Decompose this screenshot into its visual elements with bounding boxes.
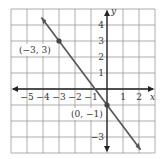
x-tick-label: 2 bbox=[136, 92, 142, 102]
y-tick-label: −3 bbox=[91, 132, 105, 142]
x-axis-label: x bbox=[150, 92, 155, 102]
point-label: (−3, 3) bbox=[19, 45, 51, 55]
y-axis-label: y bbox=[110, 6, 117, 16]
coordinate-plane: −5−4−3−2−1124321−3xy (−3, 3)(0, −1) bbox=[0, 0, 161, 159]
y-tick-label: 2 bbox=[98, 52, 104, 62]
x-tick-label: −1 bbox=[84, 92, 97, 102]
x-tick-label: 1 bbox=[120, 92, 126, 102]
data-point bbox=[104, 102, 109, 107]
arrow-left-icon bbox=[12, 86, 18, 92]
arrow-up-icon bbox=[104, 10, 110, 16]
x-tick-label: −2 bbox=[68, 92, 81, 102]
y-tick-label: 1 bbox=[98, 68, 104, 78]
x-tick-label: −3 bbox=[52, 92, 66, 102]
point-label: (0, −1) bbox=[71, 109, 103, 119]
x-tick-label: −4 bbox=[36, 92, 50, 102]
x-tick-label: −5 bbox=[20, 92, 34, 102]
y-tick-label: 4 bbox=[98, 20, 104, 30]
y-tick-label: 3 bbox=[98, 36, 104, 46]
data-point bbox=[56, 38, 61, 43]
arrow-down-icon bbox=[104, 146, 110, 152]
